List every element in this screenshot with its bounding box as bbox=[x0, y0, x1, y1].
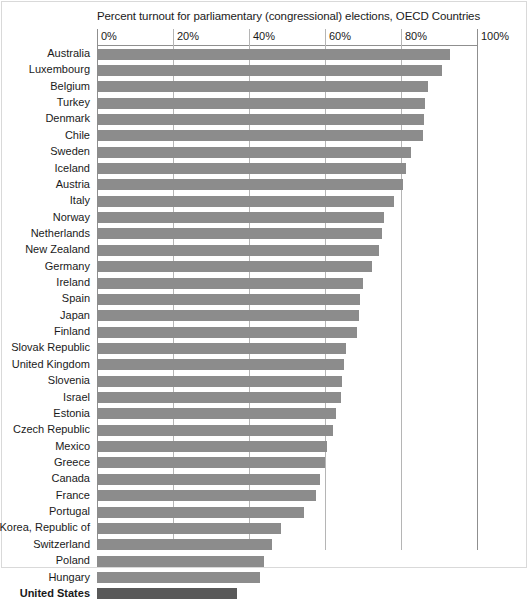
bar bbox=[97, 425, 333, 436]
x-tick-label: 40% bbox=[249, 30, 275, 42]
bar-row: France bbox=[97, 488, 477, 504]
category-label: Turkey bbox=[57, 96, 90, 109]
bar-row: Estonia bbox=[97, 406, 477, 422]
bar-row: Finland bbox=[97, 324, 477, 340]
category-label: Japan bbox=[60, 309, 90, 322]
category-label: Slovenia bbox=[48, 374, 90, 387]
category-label: Iceland bbox=[55, 162, 90, 175]
category-label: New Zealand bbox=[25, 243, 90, 256]
category-label: Israel bbox=[63, 391, 90, 404]
category-label: Sweden bbox=[50, 145, 90, 158]
bar bbox=[97, 408, 336, 419]
category-label: Australia bbox=[47, 47, 90, 60]
bar bbox=[97, 507, 304, 518]
category-label: Chile bbox=[65, 129, 90, 142]
category-label: Poland bbox=[56, 554, 90, 567]
bar bbox=[97, 441, 327, 452]
bar bbox=[97, 556, 264, 567]
bar-row: Chile bbox=[97, 128, 477, 144]
category-label: Czech Republic bbox=[13, 423, 90, 436]
bar bbox=[97, 245, 379, 256]
category-label: Portugal bbox=[49, 505, 90, 518]
bar bbox=[97, 343, 346, 354]
category-label: Luxembourg bbox=[29, 63, 90, 76]
bar-row: Hungary bbox=[97, 570, 477, 586]
category-label: Switzerland bbox=[33, 538, 90, 551]
bar bbox=[97, 65, 442, 76]
category-label: Spain bbox=[62, 292, 90, 305]
category-label: Estonia bbox=[53, 407, 90, 420]
category-label: United Kingdom bbox=[12, 358, 90, 371]
bar bbox=[97, 212, 384, 223]
category-label: Netherlands bbox=[31, 227, 90, 240]
category-label: Finland bbox=[54, 325, 90, 338]
bar-row: Canada bbox=[97, 471, 477, 487]
bar-row: Spain bbox=[97, 291, 477, 307]
bar-row: United States bbox=[97, 586, 477, 602]
bar bbox=[97, 327, 357, 338]
bar bbox=[97, 278, 363, 289]
bar bbox=[97, 98, 425, 109]
bar bbox=[97, 392, 341, 403]
bar-row: Iceland bbox=[97, 161, 477, 177]
category-label: Canada bbox=[51, 472, 90, 485]
bar bbox=[97, 588, 237, 599]
bar-row: Greece bbox=[97, 455, 477, 471]
category-label: Norway bbox=[53, 211, 90, 224]
bar bbox=[97, 294, 360, 305]
bar-row: Portugal bbox=[97, 504, 477, 520]
bar bbox=[97, 523, 281, 534]
bar-row: Poland bbox=[97, 553, 477, 569]
bar-row: Korea, Republic of bbox=[97, 520, 477, 536]
bar-row: Ireland bbox=[97, 275, 477, 291]
bar bbox=[97, 376, 342, 387]
bar-row: Japan bbox=[97, 308, 477, 324]
category-label: Greece bbox=[54, 456, 90, 469]
bar bbox=[97, 457, 325, 468]
bar bbox=[97, 310, 359, 321]
category-label: United States bbox=[20, 587, 90, 600]
category-label: Slovak Republic bbox=[11, 341, 90, 354]
category-label: Germany bbox=[45, 260, 90, 273]
bar-row: Turkey bbox=[97, 95, 477, 111]
bar-row: Mexico bbox=[97, 439, 477, 455]
bar-row: Czech Republic bbox=[97, 422, 477, 438]
plot-area: 0%20%40%60%80%100% AustraliaLuxembourgBe… bbox=[97, 29, 477, 550]
category-label: Austria bbox=[56, 178, 90, 191]
bar-row: Switzerland bbox=[97, 537, 477, 553]
bar-row: United Kingdom bbox=[97, 357, 477, 373]
bar bbox=[97, 49, 450, 60]
category-label: France bbox=[56, 489, 90, 502]
category-label: Hungary bbox=[48, 571, 90, 584]
chart-title: Percent turnout for parliamentary (congr… bbox=[97, 10, 480, 22]
bar-row: Norway bbox=[97, 210, 477, 226]
bar-row: New Zealand bbox=[97, 242, 477, 258]
bar bbox=[97, 196, 394, 207]
x-tick-label: 20% bbox=[173, 30, 199, 42]
bar bbox=[97, 474, 320, 485]
category-label: Korea, Republic of bbox=[0, 521, 90, 534]
bar-row: Denmark bbox=[97, 111, 477, 127]
x-tick-label: 0% bbox=[97, 30, 117, 42]
x-tick-label: 100% bbox=[477, 30, 509, 42]
bar-row: Luxembourg bbox=[97, 62, 477, 78]
bar bbox=[97, 539, 272, 550]
bar bbox=[97, 490, 316, 501]
bar-row: Italy bbox=[97, 193, 477, 209]
bar bbox=[97, 261, 372, 272]
bar-row: Slovak Republic bbox=[97, 340, 477, 356]
bar bbox=[97, 179, 403, 190]
bar bbox=[97, 572, 260, 583]
bar bbox=[97, 147, 411, 158]
bar bbox=[97, 114, 424, 125]
bar bbox=[97, 359, 344, 370]
bar bbox=[97, 228, 382, 239]
category-label: Belgium bbox=[50, 80, 90, 93]
bar-row: Israel bbox=[97, 390, 477, 406]
x-tick-label: 60% bbox=[325, 30, 351, 42]
bar-row: Slovenia bbox=[97, 373, 477, 389]
bar-rows: AustraliaLuxembourgBelgiumTurkeyDenmarkC… bbox=[97, 46, 477, 550]
bar-row: Germany bbox=[97, 259, 477, 275]
bar-row: Austria bbox=[97, 177, 477, 193]
